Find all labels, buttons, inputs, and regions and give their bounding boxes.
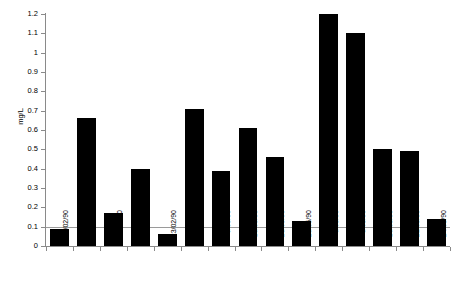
x-tick-mark (73, 247, 74, 251)
y-tick-label: 0.4 (12, 165, 38, 173)
x-tick-mark (369, 247, 370, 251)
x-tick-label: 13/02/90 (89, 210, 96, 254)
y-tick-label: 0.5 (12, 145, 38, 153)
x-tick-mark (181, 247, 182, 251)
x-tick-mark (315, 247, 316, 251)
x-tick-mark (261, 247, 262, 251)
y-tick-label: 0.9 (12, 68, 38, 76)
x-tick-mark (423, 247, 424, 251)
x-tick-label: 8/08/90 (359, 210, 366, 254)
x-tick-label: 21/08/90 (413, 210, 420, 254)
x-tick-label: 9/05/90 (224, 210, 231, 254)
x-tick-mark (235, 247, 236, 251)
x-tick-mark (396, 247, 397, 251)
y-tick-label: 1.1 (12, 29, 38, 37)
y-tick-label: 0.3 (12, 184, 38, 192)
x-tick-mark (288, 247, 289, 251)
x-tick-label: 23/05/90 (278, 210, 285, 254)
x-tick-label: 24/08/90 (440, 210, 447, 254)
y-tick-label: 1 (12, 49, 38, 57)
x-tick-mark (46, 247, 47, 251)
x-tick-label: 19/02/90 (116, 210, 123, 254)
x-tick-label: 11/02/90 (62, 210, 69, 254)
x-tick-label: 6/08/90 (332, 210, 339, 254)
x-tick-label: 7/05/90 (197, 210, 204, 254)
y-tick-label: 0 (12, 242, 38, 250)
y-tick-label: 0.7 (12, 107, 38, 115)
bar-chart: mg/L 1.21.110.90.80.70.60.50.40.30.20.10… (0, 0, 454, 302)
x-tick-label: 21/02/90 (143, 210, 150, 254)
x-tick-mark (154, 247, 155, 251)
y-tick-label: 0.2 (12, 203, 38, 211)
y-tick-label: 0.6 (12, 126, 38, 134)
x-tick-mark (342, 247, 343, 251)
x-tick-mark (208, 247, 209, 251)
y-tick-label: 0.1 (12, 223, 38, 231)
x-tick-label: 23/02/90 (170, 210, 177, 254)
y-tick-label: 1.2 (12, 10, 38, 18)
x-tick-mark (450, 247, 451, 251)
x-tick-label: 25/05/90 (305, 210, 312, 254)
x-tick-label: 15/05/90 (251, 210, 258, 254)
x-tick-mark (127, 247, 128, 251)
x-tick-label: 16/08/90 (386, 210, 393, 254)
x-tick-mark (100, 247, 101, 251)
y-tick-label: 0.8 (12, 87, 38, 95)
